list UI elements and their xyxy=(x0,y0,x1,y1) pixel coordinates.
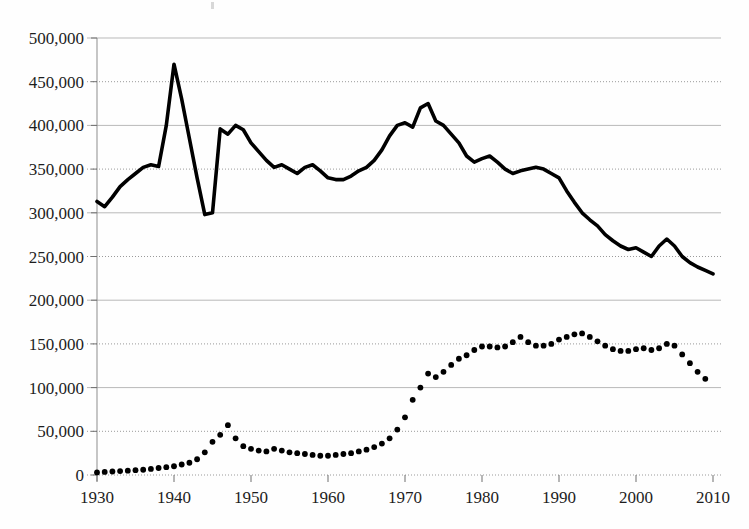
dotted-series-point xyxy=(641,345,647,351)
dotted-series-point xyxy=(579,331,585,337)
y-tick-label: 0 xyxy=(76,466,85,485)
dotted-series-point xyxy=(410,397,416,403)
dotted-series-point xyxy=(271,446,277,452)
dotted-series-point xyxy=(679,351,685,357)
y-tick-label: 350,000 xyxy=(29,160,84,179)
dotted-series-point xyxy=(248,446,254,452)
dotted-series-point xyxy=(94,469,100,475)
dotted-series-point xyxy=(702,376,708,382)
dotted-series-point xyxy=(502,344,508,350)
y-tick-label: 100,000 xyxy=(29,379,84,398)
dotted-series-point xyxy=(456,356,462,362)
dotted-series-point xyxy=(364,447,370,453)
dotted-series-point xyxy=(117,468,123,474)
x-tick-label: 2010 xyxy=(696,488,730,507)
dotted-series-point xyxy=(464,352,470,358)
dotted-series-point xyxy=(302,451,308,457)
x-tick-label: 2000 xyxy=(619,488,653,507)
dotted-series-point xyxy=(133,467,139,473)
dotted-series-point xyxy=(495,345,501,351)
dotted-series-point xyxy=(572,331,578,337)
dotted-series-point xyxy=(148,466,154,472)
x-tick-label: 1960 xyxy=(311,488,345,507)
dotted-series-point xyxy=(602,343,608,349)
dotted-series-point xyxy=(441,369,447,375)
dotted-series-point xyxy=(156,465,162,471)
dotted-series-point xyxy=(587,334,593,340)
dotted-series-point xyxy=(656,345,662,351)
y-tick-label: 450,000 xyxy=(29,73,84,92)
dotted-series-point xyxy=(187,460,193,466)
y-tick-label: 300,000 xyxy=(29,204,84,223)
dotted-series-point xyxy=(425,371,431,377)
line-chart: 050,000100,000150,000200,000250,000300,0… xyxy=(0,0,749,529)
x-tick-label: 1940 xyxy=(157,488,191,507)
dotted-series-point xyxy=(202,449,208,455)
dotted-series-point xyxy=(341,451,347,457)
y-tick-label: 50,000 xyxy=(37,422,84,441)
dotted-series-point xyxy=(294,450,300,456)
dotted-series-point xyxy=(471,347,477,353)
dotted-series-point xyxy=(533,343,539,349)
dotted-series-point xyxy=(102,469,108,475)
dotted-series-point xyxy=(387,435,393,441)
dotted-series-point xyxy=(125,468,131,474)
x-tick-label: 1990 xyxy=(542,488,576,507)
dotted-series-point xyxy=(510,339,516,345)
y-tick-label: 400,000 xyxy=(29,116,84,135)
x-tick-label: 1980 xyxy=(465,488,499,507)
y-tick-label: 150,000 xyxy=(29,335,84,354)
dotted-series-point xyxy=(556,337,562,343)
dotted-series-point xyxy=(448,362,454,368)
dotted-series-point xyxy=(595,338,601,344)
dotted-series-point xyxy=(317,453,323,459)
dotted-series-point xyxy=(610,346,616,352)
dotted-series-point xyxy=(525,339,531,345)
dotted-series-point xyxy=(664,341,670,347)
x-tick-label: 1950 xyxy=(234,488,268,507)
title-artifact xyxy=(211,2,214,9)
dotted-series-point xyxy=(633,346,639,352)
dotted-series-point xyxy=(310,452,316,458)
dotted-series-point xyxy=(179,462,185,468)
dotted-series-point xyxy=(418,385,424,391)
dotted-series-point xyxy=(333,452,339,458)
chart-container: 050,000100,000150,000200,000250,000300,0… xyxy=(0,0,749,529)
dotted-series-point xyxy=(564,334,570,340)
x-tick-label: 1970 xyxy=(388,488,422,507)
dotted-series-point xyxy=(687,360,693,366)
dotted-series-point xyxy=(279,448,285,454)
dotted-series-point xyxy=(264,449,270,455)
dotted-series-point xyxy=(225,422,231,428)
dotted-series-point xyxy=(233,435,239,441)
dotted-series-point xyxy=(325,453,331,459)
dotted-series-point xyxy=(379,441,385,447)
dotted-series-point xyxy=(194,456,200,462)
dotted-series-point xyxy=(618,348,624,354)
dotted-series-point xyxy=(217,432,223,438)
dotted-series-point xyxy=(433,374,439,380)
dotted-series-point xyxy=(548,341,554,347)
x-axis-tick-labels: 193019401950196019701980199020002010 xyxy=(80,488,730,507)
dotted-series-point xyxy=(695,369,701,375)
dotted-series-point xyxy=(240,443,246,449)
dotted-series-point xyxy=(356,449,362,455)
dotted-series-point xyxy=(110,469,116,475)
y-tick-label: 500,000 xyxy=(29,29,84,48)
dotted-series-point xyxy=(348,450,354,456)
y-tick-label: 250,000 xyxy=(29,248,84,267)
dotted-series-point xyxy=(287,449,293,455)
dotted-series-point xyxy=(479,344,485,350)
dotted-series-point xyxy=(487,344,493,350)
dotted-series-point xyxy=(518,334,524,340)
dotted-series-point xyxy=(171,463,177,469)
x-tick-label: 1930 xyxy=(80,488,114,507)
dotted-series-point xyxy=(402,414,408,420)
dotted-series-point xyxy=(625,348,631,354)
dotted-series-point xyxy=(649,347,655,353)
dotted-series-point xyxy=(394,427,400,433)
y-tick-label: 200,000 xyxy=(29,291,84,310)
dotted-series-point xyxy=(256,448,262,454)
dotted-series-point xyxy=(541,343,547,349)
dotted-series-point xyxy=(210,439,216,445)
